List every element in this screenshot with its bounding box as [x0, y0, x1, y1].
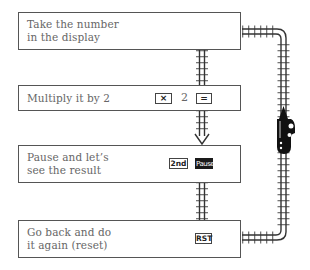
step-label: Take the number in the display [27, 18, 119, 44]
track-step3-to-step4 [196, 183, 208, 220]
step-label: Pause and let’s see the result [27, 151, 109, 177]
step-label: Go back and do it again (reset) [27, 226, 111, 252]
equals-key: = [196, 93, 212, 104]
step-box-reset: Go back and do it again (reset) RST [18, 220, 241, 258]
step-box-pause: Pause and let’s see the result 2nd Pause [18, 145, 241, 183]
second-key: 2nd [169, 158, 188, 169]
arrow-step2-to-step3 [195, 111, 209, 144]
reset-key: RST [195, 233, 212, 244]
step-box-take-number: Take the number in the display [18, 12, 241, 50]
multiply-key: × [155, 93, 172, 104]
track-step1-to-step2 [196, 49, 208, 85]
step-label: Multiply it by 2 [27, 92, 110, 105]
step-box-multiply: Multiply it by 2 × 2 = [18, 85, 241, 111]
pause-key: Pause [195, 158, 213, 169]
digit-2: 2 [181, 91, 188, 104]
